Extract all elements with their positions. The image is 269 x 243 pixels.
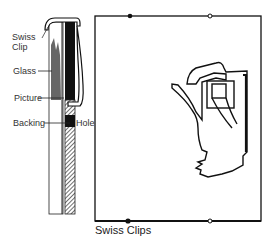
caption-swiss-clips: Swiss Clips <box>95 224 151 236</box>
label-swiss-clip-line1: Swiss <box>12 32 36 42</box>
clip-bottom-left <box>125 218 130 223</box>
label-glass: Glass <box>13 66 36 76</box>
clip-top-right <box>208 14 212 18</box>
clip-bottom-right <box>208 219 212 223</box>
front-view <box>95 14 261 224</box>
label-hole: Hole <box>76 118 95 128</box>
backing-dark <box>65 22 75 100</box>
clip-top-left <box>128 14 133 19</box>
label-picture: Picture <box>14 93 42 103</box>
side-view-section <box>38 18 83 214</box>
label-backing: Backing <box>13 118 45 128</box>
label-swiss-clip-line2: Clip <box>12 42 28 52</box>
